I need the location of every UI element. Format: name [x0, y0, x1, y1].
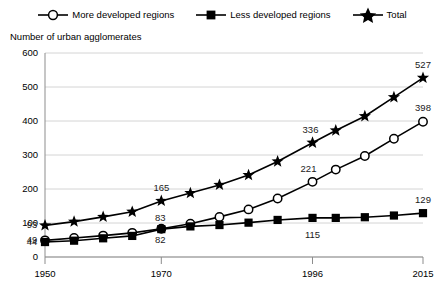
open-circle-icon: [332, 165, 340, 173]
filled-square-icon: [308, 214, 316, 222]
y-tick-label: 400: [22, 115, 38, 126]
legend-label-less-developed: Less developed regions: [230, 10, 330, 20]
open-circle-icon: [215, 213, 223, 221]
data-label: 336: [303, 124, 319, 135]
data-label: 129: [415, 194, 431, 205]
data-label: 165: [153, 182, 169, 193]
filled-square-icon: [244, 219, 252, 227]
data-label: 221: [301, 163, 317, 174]
filled-star-icon: [359, 110, 371, 122]
legend-label-more-developed: More developed regions: [72, 10, 174, 20]
y-tick-label: 600: [22, 47, 38, 58]
urban-agglomerates-chart: More developed regions Less developed re…: [0, 0, 445, 287]
y-tick-label: 200: [22, 183, 38, 194]
y-tick-label: 300: [22, 149, 38, 160]
filled-square-icon: [332, 214, 340, 222]
x-tick-label: 1970: [151, 268, 172, 279]
filled-star-icon: [213, 179, 225, 191]
y-axis-title: Number of urban agglomerates: [10, 32, 142, 42]
filled-star-icon: [353, 7, 383, 23]
filled-square-icon: [274, 216, 282, 224]
data-label: 398: [415, 102, 431, 113]
data-label: 93: [27, 219, 38, 230]
legend-item-more-developed: More developed regions: [38, 8, 174, 22]
x-tick-label: 1950: [34, 268, 55, 279]
x-tick-labels: 1950197019962015: [34, 268, 433, 279]
filled-square-icon: [419, 209, 427, 217]
filled-square-icon: [196, 8, 226, 22]
filled-star-icon: [242, 169, 254, 181]
data-label: 83: [155, 212, 166, 223]
filled-square-icon: [390, 211, 398, 219]
x-axis: [45, 257, 423, 264]
open-circle-icon: [361, 152, 369, 160]
filled-star-icon: [184, 187, 196, 199]
legend-label-total: Total: [387, 10, 407, 20]
open-circle-icon: [38, 8, 68, 22]
open-circle-icon: [390, 134, 398, 142]
data-label: 44: [27, 236, 38, 247]
y-tick-label: 0: [33, 251, 38, 262]
legend-item-less-developed: Less developed regions: [196, 8, 330, 22]
filled-square-icon: [99, 234, 107, 242]
data-label: 82: [155, 234, 166, 245]
open-circle-icon: [244, 205, 252, 213]
open-circle-icon: [419, 117, 427, 125]
chart-legend: More developed regions Less developed re…: [0, 4, 445, 26]
filled-star-icon: [306, 136, 318, 148]
data-label: 115: [305, 229, 320, 240]
filled-square-icon: [70, 237, 78, 245]
filled-star-icon: [272, 155, 284, 167]
plot-area: 0100200300400500600 1950197019962015 931…: [0, 47, 445, 287]
filled-square-icon: [186, 222, 194, 230]
y-tick-label: 500: [22, 81, 38, 92]
filled-square-icon: [128, 232, 136, 240]
filled-star-icon: [330, 124, 342, 136]
open-circle-icon: [308, 178, 316, 186]
x-tick-label: 2015: [412, 268, 433, 279]
data-label: 527: [415, 59, 431, 70]
filled-square-icon: [157, 225, 165, 233]
legend-item-total: Total: [353, 7, 407, 23]
filled-star-icon: [68, 215, 80, 227]
series-markers: [39, 71, 429, 246]
filled-star-icon: [126, 205, 138, 217]
x-tick-label: 1996: [302, 268, 323, 279]
filled-square-icon: [361, 213, 369, 221]
filled-star-icon: [155, 195, 167, 207]
filled-square-icon: [41, 238, 49, 246]
filled-square-icon: [215, 221, 223, 229]
filled-star-icon: [97, 210, 109, 222]
series-line: [45, 122, 423, 241]
open-circle-icon: [273, 194, 281, 202]
